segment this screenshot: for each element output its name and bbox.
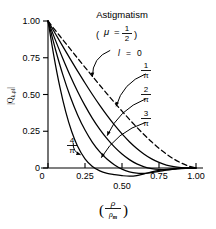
curve-label-2-pi-numerator: 2 xyxy=(144,85,149,94)
curve-label-1-pi-denominator: π xyxy=(143,71,149,80)
x-tick-label: 0.25 xyxy=(76,171,94,181)
subtitle-mu: μ xyxy=(103,26,110,37)
y-tick-label: 1.00 xyxy=(22,16,40,26)
y-tick-label: 0.50 xyxy=(22,90,40,100)
astigmatism-otf-plot: 00.250.500.751.00 00.250.500.751.00 Asti… xyxy=(0,0,216,229)
y-tick-label: 0.25 xyxy=(22,126,40,136)
xlabel-denominator-subscript: m xyxy=(113,214,118,220)
curve-label-2-pi-denominator: π xyxy=(143,95,149,104)
x-tick-label: 1.00 xyxy=(187,171,205,181)
curve-label-l0-value: 0 xyxy=(137,48,142,58)
curve-label-1-pi-numerator: 1 xyxy=(144,61,149,70)
subtitle-equals: = xyxy=(114,26,120,37)
curve-label-3-pi-denominator: π xyxy=(143,119,149,128)
subtitle-denominator: 2 xyxy=(125,34,130,43)
chart-figure: 00.250.500.751.00 00.250.500.751.00 Asti… xyxy=(0,0,216,229)
xlabel-paren-open: ( xyxy=(99,202,104,219)
curve-label-l0-equals: = xyxy=(126,48,131,58)
y-axis-label-close: | xyxy=(6,87,15,89)
xlabel-numerator: ρ xyxy=(110,199,116,208)
x-tick-label: 0.50 xyxy=(113,181,131,191)
curve-label-3-pi-numerator: 3 xyxy=(144,109,149,118)
y-tick-label: 0.75 xyxy=(22,53,40,63)
subtitle-paren-close: ) xyxy=(134,29,137,40)
subtitle-numerator: 1 xyxy=(125,24,130,33)
curve-label-4-pi-numerator: 4 xyxy=(70,136,75,145)
xlabel-paren-close: ) xyxy=(123,202,128,219)
x-tick-label: 0 xyxy=(39,171,44,181)
curve-label-4-pi-denominator: π xyxy=(69,146,75,155)
chart-title: Astigmatism xyxy=(96,9,148,20)
